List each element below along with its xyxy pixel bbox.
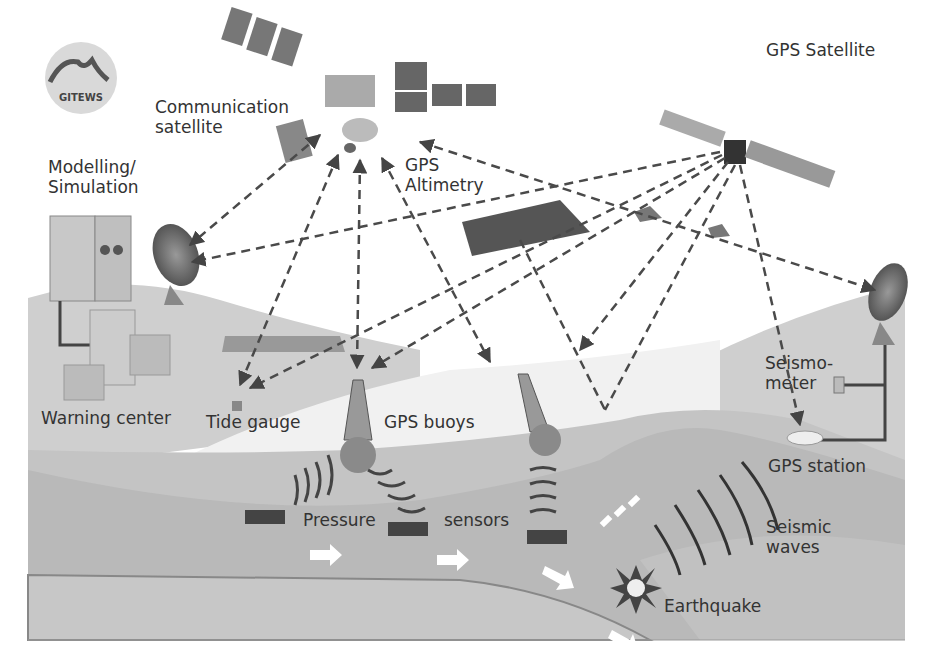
gps-satellite-icon — [659, 110, 835, 188]
seismometer-icon — [834, 377, 844, 393]
label-modelling-simulation: Modelling/ Simulation — [48, 157, 139, 197]
label-seismometer: Seismo- meter — [765, 353, 833, 393]
tsunami-warning-system-diagram: GITEWS — [0, 0, 936, 661]
label-earthquake: Earthquake — [664, 596, 761, 616]
label-seismic-waves: Seismic waves — [766, 517, 831, 557]
label-sensors: sensors — [444, 510, 509, 530]
label-gps-station: GPS station — [768, 456, 866, 476]
label-gps-buoys: GPS buoys — [384, 412, 475, 432]
communication-satellite-icon — [220, 7, 496, 163]
label-warning-center: Warning center — [41, 408, 171, 428]
link-gps-buoy2 — [580, 162, 728, 350]
label-communication-satellite: Communication satellite — [155, 97, 289, 137]
gps-station-icon — [787, 431, 823, 445]
logo-text: GITEWS — [59, 92, 103, 103]
label-gps-satellite: GPS Satellite — [766, 40, 875, 60]
label-tide-gauge: Tide gauge — [206, 412, 300, 432]
label-gps-altimetry: GPS Altimetry — [405, 155, 483, 195]
label-pressure: Pressure — [303, 510, 376, 530]
tide-gauge-icon — [232, 401, 242, 411]
gitews-logo: GITEWS — [45, 42, 117, 114]
